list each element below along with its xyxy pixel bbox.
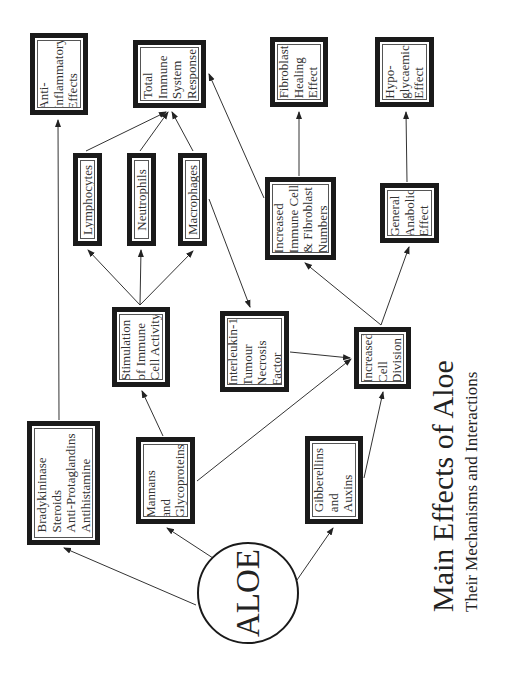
- node-mannans: Mannans and Glycoproteins: [136, 437, 195, 524]
- node-gibberellins: Gibberellins and Auxins: [305, 436, 363, 524]
- node-increased-cell-division: Increased Cell Division: [354, 327, 411, 389]
- node-label: and: [158, 444, 173, 517]
- node-label: Necrosis: [255, 318, 270, 385]
- node-label: Fibroblast: [277, 46, 292, 99]
- node-label: Steroids: [49, 434, 64, 533]
- node-label: Bradykininase: [35, 434, 50, 533]
- node-label: Tumour: [240, 318, 255, 385]
- node-label: Factor: [269, 318, 282, 385]
- node-label: Response: [184, 49, 199, 99]
- node-label: General: [388, 190, 403, 236]
- node-label: Neutrophils: [134, 169, 149, 230]
- node-label: Effect: [417, 190, 432, 236]
- node-label: glycaemic: [397, 45, 412, 98]
- node-label: Inflammatory: [52, 40, 67, 108]
- node-label: Effect: [306, 46, 321, 99]
- node-macrophages: Macrophages: [178, 153, 207, 246]
- node-label: Immune: [155, 49, 170, 99]
- node-neutrophils: Neutrophils: [127, 153, 156, 246]
- node-label: Anti-Protaglandins: [64, 434, 79, 533]
- node-label: Interleukin-1: [227, 318, 240, 385]
- node-label: Numbers: [315, 184, 329, 252]
- node-lymphocytes: Lymphocytes: [73, 153, 102, 246]
- node-general-anabolic: General Anabolic Effect: [380, 183, 439, 243]
- node-label: Glycoproteins: [173, 444, 188, 517]
- node-label: Cell: [375, 334, 390, 382]
- node-label: Total: [141, 49, 156, 99]
- node-label: & Fibroblast: [301, 184, 316, 252]
- node-label: Division: [390, 334, 404, 382]
- diagram-title: Main Effects of Aloe: [426, 360, 460, 612]
- node-label: Mannans: [144, 444, 159, 517]
- node-label: Cell Activity: [148, 314, 163, 380]
- node-aloe: ALOE: [197, 542, 299, 644]
- node-label: Lymphocytes: [80, 164, 95, 234]
- node-label: of Immune: [134, 314, 149, 380]
- node-label: Gibberellins: [312, 448, 327, 512]
- node-label: Immune Cell: [286, 184, 301, 252]
- node-total-immune-response: Total Immune System Response: [133, 40, 206, 108]
- node-label: Hypo-: [383, 45, 398, 98]
- node-anti-inflammatory: Anti- Inflammatory Effects: [30, 33, 88, 115]
- node-label: Effects: [66, 40, 81, 108]
- node-label: Increased: [272, 184, 286, 252]
- node-increased-immune-cell-numbers: Increased Immune Cell & Fibroblast Numbe…: [265, 177, 336, 260]
- node-label: Healing: [292, 46, 307, 99]
- node-label: Effect: [412, 45, 427, 98]
- node-label: Auxins: [341, 448, 356, 512]
- aloe-effects-diagram: Anti- Inflammatory Effects Total Immune …: [0, 0, 513, 683]
- node-label: and: [327, 448, 342, 512]
- node-hypoglycaemic: Hypo- glycaemic Effect: [375, 37, 434, 107]
- node-bradykininase: Bradykininase Steroids Anti-Protaglandin…: [27, 421, 100, 545]
- node-label: System: [170, 49, 185, 99]
- node-label: Macrophages: [185, 164, 200, 234]
- aloe-label: ALOE: [230, 549, 267, 637]
- node-fibroblast-healing: Fibroblast Healing Effect: [270, 37, 328, 107]
- node-label: Stimulation: [119, 314, 134, 380]
- node-label: Antihistamine: [78, 434, 93, 533]
- node-interleukin: Interleukin-1 Tumour Necrosis Factor: [220, 311, 289, 392]
- node-label: Anti-: [37, 40, 52, 108]
- node-stimulation-immune-cell: Stimulation of Immune Cell Activity: [112, 307, 170, 387]
- diagram-subtitle: Their Mechanisms and Interactions: [462, 372, 482, 612]
- node-label: Anabolic: [402, 190, 417, 236]
- node-label: Increased: [361, 334, 375, 382]
